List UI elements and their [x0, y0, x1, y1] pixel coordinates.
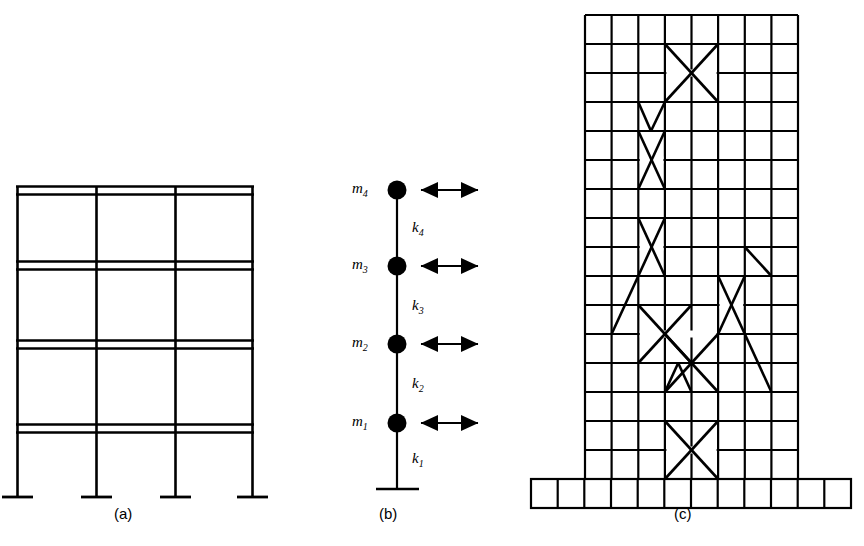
chevron-center-upper-b [678, 363, 691, 392]
mass-label-m2: m2 [352, 334, 368, 353]
mass-label-m1-symbol: m [352, 413, 363, 429]
beam-level-3 [16, 262, 254, 270]
podium-base [531, 479, 851, 508]
stiffness-label-k3: k3 [412, 297, 424, 316]
beam-level-4 [16, 187, 254, 195]
beam-level-1 [16, 425, 254, 433]
stiffness-label-k2-sub: 2 [419, 383, 424, 394]
stiffness-label-k4-sub: 4 [419, 227, 424, 238]
panel-a-moment-frame [2, 186, 268, 497]
mass-label-m4-symbol: m [352, 180, 363, 196]
panel-b-lumped-mass-model [376, 181, 478, 490]
mass-label-m1-sub: 1 [363, 421, 368, 432]
panel-c-braced-tower [531, 15, 851, 508]
stiffness-label-k2-symbol: k [412, 375, 419, 391]
mass-node-2 [388, 335, 407, 354]
stiffness-label-k2: k2 [412, 375, 424, 394]
mass-label-m4: m4 [352, 180, 368, 199]
stiffness-label-k4: k4 [412, 219, 424, 238]
mass-label-m3-symbol: m [352, 256, 363, 272]
stiffness-label-k3-sub: 3 [419, 305, 424, 316]
clear-center-brace [666, 331, 716, 338]
chevron-upper-left [638, 102, 665, 131]
mass-label-m2-symbol: m [352, 334, 363, 350]
caption-panel-a: (a) [114, 505, 132, 522]
beam-level-2 [16, 341, 254, 349]
mass-label-m3: m3 [352, 256, 368, 275]
chevron-upper-left-b [651, 102, 665, 131]
mass-node-1 [388, 414, 407, 433]
caption-panel-b: (b) [379, 505, 397, 522]
stiffness-label-k3-symbol: k [412, 297, 419, 313]
panel-b-dof-arrows [421, 190, 478, 423]
mass-node-4 [388, 181, 407, 200]
brace-right-upper-leg [745, 247, 772, 276]
chevron-upper-left-a [638, 102, 651, 131]
chevron-center-upper-a [665, 363, 678, 392]
stiffness-label-k1: k1 [412, 450, 424, 469]
mass-node-3 [388, 257, 407, 276]
structural-dynamics-figure [0, 0, 864, 546]
podium-dividers [558, 479, 825, 508]
panel-a-beams [16, 187, 254, 433]
mass-label-m3-sub: 3 [363, 264, 368, 275]
stiffness-label-k4-symbol: k [412, 219, 419, 235]
mass-label-m2-sub: 2 [363, 342, 368, 353]
stiffness-label-k1-symbol: k [412, 450, 419, 466]
mass-label-m4-sub: 4 [363, 188, 368, 199]
stiffness-label-k1-sub: 1 [419, 458, 424, 469]
mass-label-m1: m1 [352, 413, 368, 432]
caption-panel-c: (c) [674, 505, 692, 522]
